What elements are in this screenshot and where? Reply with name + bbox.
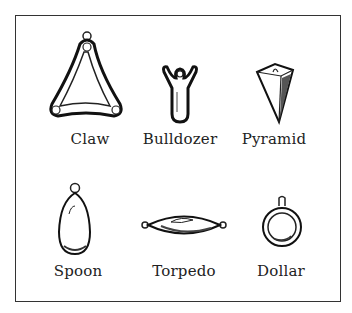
torpedo-sinker-icon (141, 212, 227, 238)
label-dollar: Dollar (226, 262, 336, 280)
label-spoon: Spoon (23, 262, 133, 280)
spoon-sinker-icon (54, 182, 94, 258)
claw-sinker-icon (44, 30, 126, 126)
label-torpedo: Torpedo (129, 262, 239, 280)
pyramid-sinker-icon (253, 58, 297, 126)
label-pyramid: Pyramid (219, 130, 329, 148)
bulldozer-sinker-icon (160, 64, 200, 124)
dollar-sinker-icon (261, 194, 303, 250)
